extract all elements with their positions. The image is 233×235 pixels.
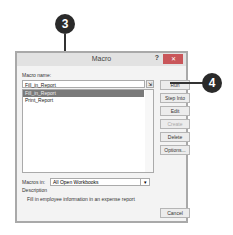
help-icon[interactable]: ? <box>155 54 159 61</box>
edit-button[interactable]: Edit <box>160 106 190 116</box>
macros-in-select[interactable]: All Open Workbooks ▾ <box>50 178 150 186</box>
macro-name-label: Macro name: <box>22 72 51 78</box>
step-into-button[interactable]: Step Into <box>160 93 190 103</box>
dialog-title: Macro <box>17 55 186 62</box>
macros-in-label: Macros in: <box>22 179 45 185</box>
macro-list-item[interactable]: Fill_in_Report <box>23 90 144 97</box>
macro-name-input[interactable]: Fill_in_Report <box>22 80 145 88</box>
macro-dialog: Macro ? ✕ Macro name: Fill_in_Report ⇲ F… <box>15 51 188 223</box>
options-button[interactable]: Options... <box>160 145 190 155</box>
macro-list-item[interactable]: Print_Report <box>23 97 153 104</box>
chevron-down-icon[interactable]: ▾ <box>140 179 149 185</box>
close-button[interactable]: ✕ <box>163 54 183 64</box>
list-scrollbar[interactable] <box>145 90 153 172</box>
description-text: Fill in employee information in an expen… <box>27 196 135 202</box>
callout-3: 3 <box>55 14 75 34</box>
delete-button[interactable]: Delete <box>160 132 190 142</box>
macros-in-value: All Open Workbooks <box>53 179 98 185</box>
macro-list[interactable]: Fill_in_Report Print_Report <box>22 89 154 173</box>
create-button[interactable]: Create <box>160 119 190 129</box>
title-bar: Macro ? ✕ <box>17 53 186 66</box>
collapse-dialog-icon[interactable]: ⇲ <box>146 80 154 88</box>
description-label: Description <box>22 187 47 193</box>
cancel-button[interactable]: Cancel <box>160 208 190 218</box>
callout-4-line <box>170 82 203 84</box>
callout-4: 4 <box>202 73 222 93</box>
